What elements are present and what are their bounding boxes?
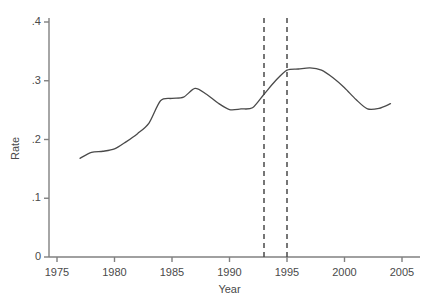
- y-tick-label-0.4: .4: [0, 16, 41, 27]
- x-tick-label-1995: 1995: [257, 267, 317, 278]
- x-tick-label-1975: 1975: [27, 267, 87, 278]
- x-tick-label-1985: 1985: [142, 267, 202, 278]
- rate-series-line: [80, 68, 391, 158]
- y-tick-label-0.3: .3: [0, 75, 41, 86]
- x-tick-label-1980: 1980: [85, 267, 145, 278]
- rate-vs-year-line-chart: .4 .3 .2 .1 0 1975 1980 1985 1990 1995 2…: [0, 0, 430, 307]
- y-tick-label-0.1: .1: [0, 192, 41, 203]
- x-tick-label-1990: 1990: [200, 267, 260, 278]
- x-axis-title: Year: [190, 284, 270, 295]
- x-tick-label-2000: 2000: [315, 267, 375, 278]
- y-axis-title: Rate: [10, 136, 21, 159]
- plot-area: [0, 0, 430, 307]
- y-tick-label-0: 0: [0, 251, 41, 262]
- x-tick-label-2005: 2005: [372, 267, 430, 278]
